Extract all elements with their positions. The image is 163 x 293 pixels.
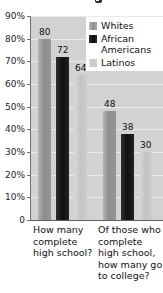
y-axis-labels: 90%80%70%60%50%40%30%20%10%0	[0, 0, 29, 293]
legend-label-latinos: Latinos	[101, 57, 135, 68]
legend-label-african-americans: African Americans	[101, 33, 161, 55]
legend-swatch-icon-african-americans	[89, 35, 97, 43]
y-axis-tick-label: 90%	[5, 12, 25, 21]
bar-value-label: 30	[140, 141, 151, 150]
y-axis-tick-label: 10%	[5, 193, 25, 202]
bar-value-label: 48	[104, 100, 115, 109]
y-axis-tick	[27, 84, 31, 85]
legend-label-whites: Whites	[101, 20, 134, 31]
legend-swatch-icon-latinos	[89, 59, 97, 67]
y-axis-tick-label: 0	[19, 216, 25, 225]
y-axis-tick	[27, 175, 31, 176]
bar	[74, 75, 87, 220]
bar	[139, 152, 152, 220]
y-axis-tick-label: 70%	[5, 57, 25, 66]
y-axis-tick	[27, 197, 31, 198]
legend-item-latinos: Latinos	[89, 57, 161, 68]
y-axis-tick	[27, 129, 31, 130]
y-axis-tick-label: 80%	[5, 35, 25, 44]
bar	[121, 134, 134, 220]
y-axis-tick	[27, 16, 31, 17]
bar	[56, 57, 69, 220]
y-axis-tick	[27, 220, 31, 221]
y-axis-tick-label: 60%	[5, 80, 25, 89]
y-axis-tick	[27, 39, 31, 40]
legend-item-whites: Whites	[89, 20, 161, 31]
x-axis-line	[30, 220, 163, 221]
bar-value-label: 72	[57, 46, 68, 55]
bar-value-label: 64	[75, 64, 86, 73]
bar	[103, 111, 116, 220]
bar-value-label: 38	[122, 123, 133, 132]
x-axis-label-group-2: Of those who complete high school, how m…	[98, 224, 163, 282]
bar-chart: 90%80%70%60%50%40%30%20%10%0 80726448383…	[0, 0, 163, 293]
legend: Whites African Americans Latinos	[86, 17, 163, 71]
y-axis-tick-label: 30%	[5, 148, 25, 157]
y-axis-tick	[27, 61, 31, 62]
x-axis-labels: How many complete high school? Of those …	[31, 224, 163, 293]
legend-swatch-icon-whites	[89, 22, 97, 30]
y-axis-tick	[27, 107, 31, 108]
bar	[38, 39, 51, 220]
clipped-title-descender	[95, 0, 102, 3]
x-axis-label-group-1: How many complete high school?	[33, 224, 93, 259]
legend-item-african-americans: African Americans	[89, 33, 161, 55]
y-axis-tick-label: 50%	[5, 103, 25, 112]
y-axis-tick-label: 40%	[5, 125, 25, 134]
y-axis-tick-label: 20%	[5, 171, 25, 180]
y-axis-tick	[27, 152, 31, 153]
bar-value-label: 80	[39, 28, 50, 37]
